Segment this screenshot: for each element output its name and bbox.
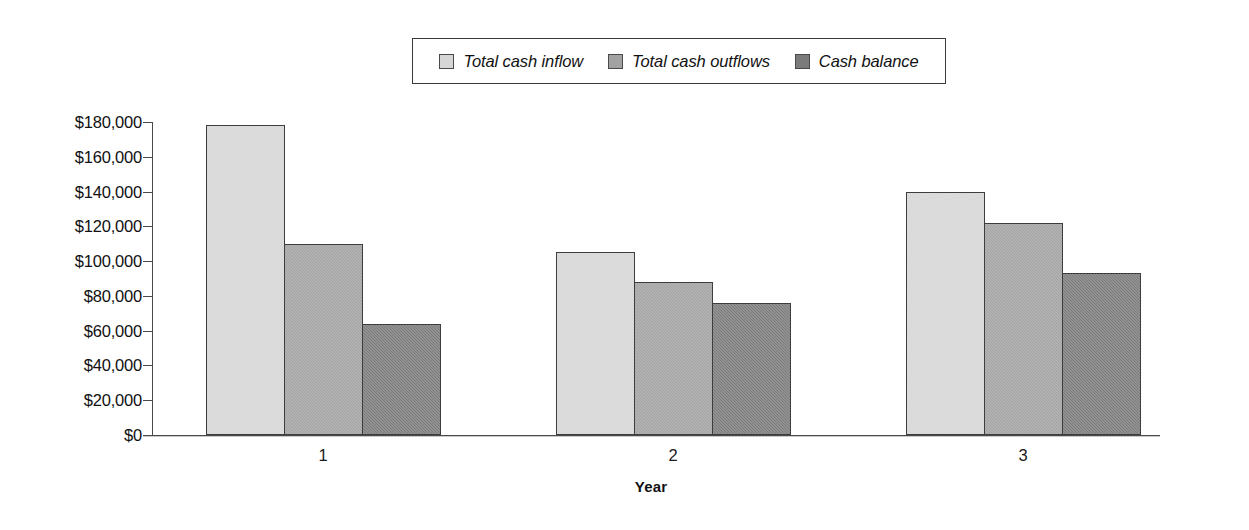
y-axis-tick-mark (143, 192, 152, 193)
bar[interactable] (284, 244, 363, 435)
y-axis-tick-label: $60,000 (84, 321, 142, 340)
bar[interactable] (984, 223, 1063, 435)
y-axis-tick-label: $140,000 (75, 182, 142, 201)
y-axis-tick-label: $80,000 (84, 286, 142, 305)
y-axis-tick-mark (143, 435, 152, 436)
bar[interactable] (906, 192, 985, 435)
y-axis-tick-mark (143, 331, 152, 332)
bar[interactable] (206, 125, 285, 435)
y-axis-tick-label: $0 (124, 426, 142, 445)
y-axis-tick-mark (143, 226, 152, 227)
y-axis-tick-mark (143, 157, 152, 158)
y-axis-tick-label: $160,000 (75, 147, 142, 166)
bar[interactable] (712, 303, 791, 435)
x-axis-tick-label: 1 (318, 446, 327, 465)
y-axis-tick-label: $20,000 (84, 391, 142, 410)
y-axis-line (152, 122, 153, 436)
y-axis-tick-mark (143, 261, 152, 262)
x-axis-line-shadow (143, 436, 1160, 437)
x-axis-tick-label: 2 (668, 446, 677, 465)
y-axis-tick-label: $100,000 (75, 252, 142, 271)
bar[interactable] (1062, 273, 1141, 435)
y-axis-tick-label: $120,000 (75, 217, 142, 236)
x-axis-tick-label: 3 (1018, 446, 1027, 465)
bar-chart: Total cash inflow Total cash outflows Ca… (0, 0, 1249, 530)
y-axis-tick-mark (143, 296, 152, 297)
y-axis-tick-mark (143, 400, 152, 401)
y-axis-tick-mark (143, 365, 152, 366)
x-axis-title: Year (635, 478, 668, 495)
bar[interactable] (556, 252, 635, 435)
y-axis-tick-label: $40,000 (84, 356, 142, 375)
bar[interactable] (362, 324, 441, 435)
y-axis-tick-label: $180,000 (75, 113, 142, 132)
y-axis-tick-mark (143, 122, 152, 123)
plot-area: $0$20,000$40,000$60,000$80,000$100,000$1… (0, 0, 1249, 530)
bar[interactable] (634, 282, 713, 435)
